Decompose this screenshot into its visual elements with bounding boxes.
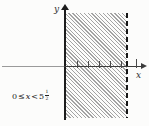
y-axis: [64, 9, 66, 120]
inequality-integer-part: 5: [39, 92, 44, 101]
x-axis-positive-segment: [64, 66, 142, 67]
x-axis-label: x: [136, 71, 141, 80]
inequality-label: 0≤x<512: [12, 90, 49, 102]
leq-symbol: ≤: [17, 92, 26, 101]
fraction-denominator: 2: [45, 96, 49, 101]
y-axis-label: y: [54, 5, 59, 14]
x-axis-tick: [88, 61, 89, 68]
x-axis-tick: [110, 61, 111, 68]
y-axis-arrow-icon: [61, 4, 69, 10]
x-axis-tick: [121, 61, 122, 68]
x-axis-tick: [77, 61, 78, 68]
x-axis-tick: [99, 61, 100, 68]
x-axis-negative-segment: [2, 66, 64, 67]
inequality-region-figure: y x 0≤x<512: [0, 0, 149, 126]
lt-symbol: <: [30, 92, 39, 101]
x-axis-tick: [136, 59, 137, 68]
inequality-fraction: 12: [45, 90, 49, 101]
x-axis-arrow-icon: [141, 63, 147, 69]
